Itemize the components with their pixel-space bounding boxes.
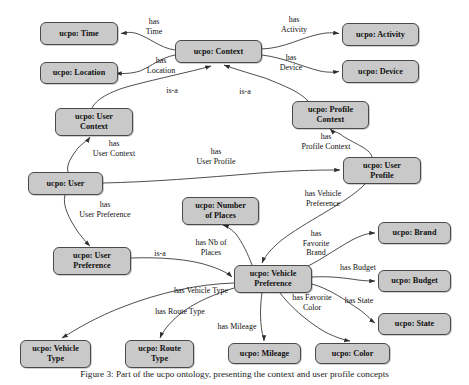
- node-state[interactable]: ucpo: State: [378, 313, 451, 335]
- edge-label-has-userprofile: has User Profile: [197, 147, 236, 166]
- edge-has-user-context: [68, 137, 90, 172]
- node-activity[interactable]: ucpo: Activity: [342, 23, 419, 46]
- node-context[interactable]: ucpo: Context: [175, 40, 262, 63]
- edge-has-nb-places: [223, 225, 252, 265]
- node-userpref[interactable]: ucpo: User Preference: [53, 247, 131, 275]
- edge-label-has-activity: has Activity: [281, 15, 307, 34]
- edge-label-has-userpreference: has User Preference: [79, 200, 130, 219]
- edge-label-isa-userpref: is-a: [154, 249, 166, 259]
- node-vehtype[interactable]: ucpo: Vehicle Type: [20, 340, 91, 368]
- node-userprofile[interactable]: ucpo: User Profile: [343, 157, 421, 184]
- edge-label-has-vehiclepref: has Vehicle Preference: [305, 189, 342, 208]
- edge-label-has-favoritecolor: has Favorite Color: [292, 293, 331, 312]
- node-brand[interactable]: ucpo: Brand: [378, 222, 451, 244]
- edge-has-budget: [312, 277, 375, 281]
- edge-label-has-budget: has Budget: [340, 263, 376, 273]
- node-device[interactable]: ucpo: Device: [342, 60, 419, 83]
- edge-isa-user-pref: [131, 258, 232, 277]
- node-usercontext[interactable]: ucpo: User Context: [55, 108, 133, 136]
- edge-label-has-time: has Time: [146, 17, 163, 36]
- edge-label-has-usercontext: has User Context: [93, 139, 135, 158]
- node-vehpref[interactable]: ucpo: Vehicle Preference: [234, 265, 312, 293]
- node-color[interactable]: ucpo: Color: [315, 343, 390, 364]
- edge-label-has-routetype: has Route Type: [155, 307, 205, 317]
- edge-label-has-device: has Device: [280, 53, 303, 72]
- edge-label-has-location: has Location: [147, 56, 175, 75]
- edge-label-has-favoritebrand: has Favorite Brand: [303, 229, 330, 258]
- figure-caption: Figure 3: Part of the ucpo ontology, pre…: [0, 369, 469, 385]
- node-numplaces[interactable]: ucpo: Number of Places: [182, 197, 259, 225]
- edge-label-has-mileage: has Mileage: [218, 322, 257, 332]
- edge-label-has-state: has State: [345, 296, 374, 306]
- edge-label-has-profilecontext: has Profile Context: [301, 132, 350, 151]
- node-user[interactable]: ucpo: User: [28, 172, 103, 195]
- node-routetype[interactable]: ucpo: Route Type: [125, 340, 194, 368]
- edge-has-user-profile: [103, 170, 340, 183]
- edge-has-mileage: [261, 293, 265, 341]
- node-profilectx[interactable]: ucpo: Profile Context: [292, 101, 369, 129]
- edge-label-has-nbplaces: has Nb of Places: [195, 238, 226, 257]
- edge-label-has-vehicletype: has Vehicle Type: [174, 286, 228, 296]
- edge-has-activity: [262, 33, 339, 49]
- node-mileage[interactable]: ucpo: Mileage: [228, 343, 301, 364]
- diagram-canvas: ucpo: Timeucpo: Contextucpo: Activityucp…: [0, 0, 469, 385]
- edge-label-isa-usercontext: is-a: [166, 86, 178, 96]
- node-location[interactable]: ucpo: Location: [40, 62, 118, 84]
- node-time[interactable]: ucpo: Time: [40, 22, 118, 45]
- node-budget[interactable]: ucpo: Budget: [378, 270, 451, 292]
- edge-label-isa-profilecontext: is-a: [239, 87, 251, 97]
